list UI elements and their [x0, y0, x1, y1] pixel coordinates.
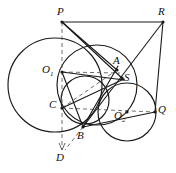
R-Q [155, 22, 163, 112]
geometry-figure: PRO1ASCO2QBD [0, 0, 176, 173]
point-label-text-P: P [57, 5, 64, 17]
point-label-text-B: B [77, 129, 84, 141]
point-label-S: S [124, 72, 130, 83]
point-label-P: P [57, 6, 64, 17]
vertex-dot-R [161, 20, 164, 23]
small-inner-circle [61, 76, 109, 124]
point-label-R: R [158, 6, 165, 17]
vertex-dot-P [60, 20, 63, 23]
P-A [62, 22, 117, 70]
point-label-subscript-O2: 2 [122, 116, 126, 124]
vertex-dot-A [115, 68, 118, 71]
point-label-text-Q: Q [158, 103, 166, 115]
point-label-D: D [56, 152, 64, 163]
geometry-canvas [0, 0, 176, 173]
vertex-dot-C [60, 106, 63, 109]
C-S [62, 79, 124, 108]
point-label-subscript-O1: 1 [50, 70, 54, 78]
point-label-O2: O2 [114, 110, 125, 124]
point-label-Q: Q [158, 104, 166, 115]
point-label-text-O1: O [42, 63, 50, 75]
point-label-text-S: S [124, 71, 130, 83]
point-label-text-C: C [49, 98, 56, 110]
point-label-O1: O1 [42, 64, 53, 78]
solid-segments-group [62, 22, 163, 127]
vertex-dot-O1 [60, 70, 63, 73]
point-label-B: B [77, 130, 84, 141]
point-label-text-O2: O [114, 109, 122, 121]
vertex-dot-Q [153, 110, 156, 113]
point-label-text-R: R [158, 5, 165, 17]
vertex-dot-O2 [125, 110, 128, 113]
point-label-text-D: D [56, 151, 64, 163]
point-label-C: C [49, 99, 56, 110]
point-label-A: A [113, 55, 120, 66]
point-label-text-A: A [113, 54, 120, 66]
